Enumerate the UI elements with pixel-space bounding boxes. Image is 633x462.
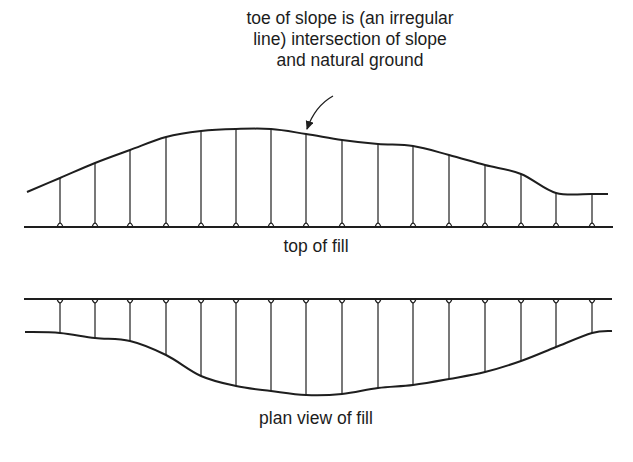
plan-view-figure (24, 299, 612, 395)
annotation-arrow-icon (307, 96, 333, 129)
plan-view-caption: plan view of fill (196, 408, 436, 429)
fill-diagram (0, 0, 633, 462)
top-of-fill-caption: top of fill (216, 236, 416, 257)
top-of-fill-figure (24, 129, 613, 227)
toe-of-slope-curve (25, 331, 612, 395)
